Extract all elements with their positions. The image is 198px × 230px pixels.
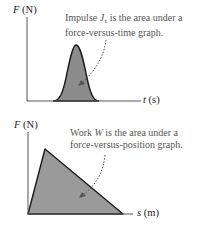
- y-axis-label: F (N): [14, 119, 38, 130]
- work-area: [28, 149, 123, 214]
- x-axis-label: s (m): [137, 207, 159, 218]
- impulse-graph: F (N) t (s) Impulse Jx is the area under…: [0, 0, 198, 115]
- impulse-area: [53, 45, 99, 101]
- work-graph: F (N) s (m) Work W is the area under a f…: [0, 115, 198, 230]
- work-caption: Work W is the area under a force-versus-…: [70, 127, 183, 151]
- y-axis-label: F (N): [13, 4, 37, 15]
- impulse-caption: Impulse Jx is the area under a force-ver…: [65, 12, 182, 39]
- x-axis-label: t (s): [143, 94, 160, 105]
